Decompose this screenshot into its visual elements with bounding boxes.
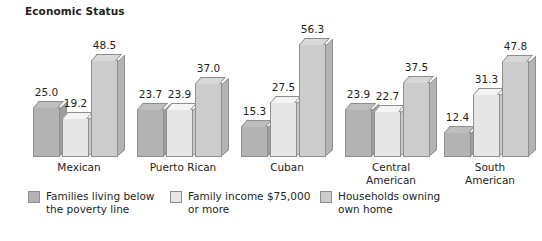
bar-value-label: 47.8 <box>504 40 527 52</box>
bar-value-label: 22.7 <box>376 90 399 102</box>
bar-front-face <box>137 109 164 157</box>
chart-plot-area: 25.019.248.5Mexican23.723.937.0Puerto Ri… <box>0 0 542 180</box>
bar-front-face <box>62 118 89 157</box>
bar-side-face <box>118 54 125 156</box>
bar-front-face <box>270 102 297 157</box>
square-swatch-icon <box>28 191 40 203</box>
bar-side-face <box>222 77 229 156</box>
bar-top-face <box>403 76 434 83</box>
bar-front-face <box>241 126 268 157</box>
bar-front-face <box>502 61 529 157</box>
bar-top-face <box>270 96 301 103</box>
bar-value-label: 25.0 <box>35 86 58 98</box>
bar: 31.3 <box>473 94 500 157</box>
bar-front-face <box>403 82 430 157</box>
bar-group: 12.431.347.8South American <box>444 42 536 157</box>
bar-value-label: 37.0 <box>197 62 220 74</box>
bar-value-label: 19.2 <box>64 97 87 109</box>
category-axis-label: Mexican <box>33 161 125 174</box>
category-axis-label: Cuban <box>241 161 333 174</box>
bar-value-label: 27.5 <box>272 81 295 93</box>
bar-value-label: 31.3 <box>475 73 498 85</box>
legend-item: Family income $75,000 or more <box>170 190 310 216</box>
bar-value-label: 23.9 <box>347 88 370 100</box>
legend-item-label: Families living below the poverty line <box>46 190 154 216</box>
category-axis-label: South American <box>444 161 536 186</box>
category-axis-label: Puerto Rican <box>137 161 229 174</box>
bar: 37.5 <box>403 82 430 157</box>
bar: 23.7 <box>137 109 164 157</box>
bar: 56.3 <box>299 44 326 157</box>
bar-front-face <box>33 107 60 157</box>
bar-side-face <box>430 76 437 156</box>
bar-value-label: 23.7 <box>139 88 162 100</box>
bar-side-face <box>326 39 333 156</box>
legend-item: Families living below the poverty line <box>28 190 154 216</box>
bar-value-label: 12.4 <box>446 111 469 123</box>
bar-front-face <box>345 109 372 157</box>
bar: 19.2 <box>62 118 89 157</box>
bar-front-face <box>195 83 222 157</box>
bar-side-face <box>529 56 536 156</box>
bar: 47.8 <box>502 61 529 157</box>
legend-item: Households owning own home <box>320 190 440 216</box>
bar-group: 25.019.248.5Mexican <box>33 42 125 157</box>
category-axis-label: Central American <box>345 161 437 186</box>
bar-value-label: 37.5 <box>405 61 428 73</box>
bar: 12.4 <box>444 132 471 157</box>
bar: 37.0 <box>195 83 222 157</box>
bar-front-face <box>473 94 500 157</box>
square-swatch-icon <box>320 191 332 203</box>
bar: 27.5 <box>270 102 297 157</box>
legend-item-label: Households owning own home <box>338 190 440 216</box>
bar: 25.0 <box>33 107 60 157</box>
bar-group: 23.922.737.5Central American <box>345 42 437 157</box>
bar-value-label: 15.3 <box>243 105 266 117</box>
bar-front-face <box>374 111 401 157</box>
bar-front-face <box>166 109 193 157</box>
bar: 22.7 <box>374 111 401 157</box>
bar-front-face <box>299 44 326 157</box>
bar: 15.3 <box>241 126 268 157</box>
bar-front-face <box>91 60 118 157</box>
bar: 48.5 <box>91 60 118 157</box>
bar: 23.9 <box>166 109 193 157</box>
bar-value-label: 23.9 <box>168 88 191 100</box>
bar-top-face <box>33 101 64 108</box>
bar-value-label: 48.5 <box>93 39 116 51</box>
bar-group: 23.723.937.0Puerto Rican <box>137 42 229 157</box>
bar-top-face <box>91 54 122 61</box>
legend-item-label: Family income $75,000 or more <box>188 190 310 216</box>
bar-front-face <box>444 132 471 157</box>
bar: 23.9 <box>345 109 372 157</box>
bar-top-face <box>195 77 226 84</box>
square-swatch-icon <box>170 191 182 203</box>
chart-legend: Families living below the poverty lineFa… <box>0 190 542 224</box>
bar-value-label: 56.3 <box>301 23 324 35</box>
bar-group: 15.327.556.3Cuban <box>241 42 333 157</box>
